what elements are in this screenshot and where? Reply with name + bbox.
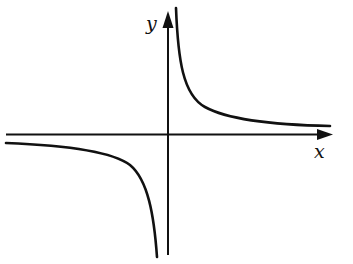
hyperbola-graph (0, 0, 353, 264)
x-axis-label: x (314, 140, 325, 162)
y-axis (163, 11, 174, 255)
y-axis-label: y (146, 12, 157, 34)
x-axis (6, 129, 333, 140)
x-axis-arrow-icon (317, 129, 333, 140)
curve-branch-quadrant-1 (176, 8, 330, 126)
curve-branch-quadrant-3 (6, 143, 157, 257)
y-axis-arrow-icon (163, 11, 174, 28)
